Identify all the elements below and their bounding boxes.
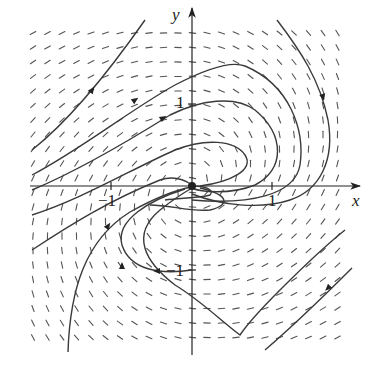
- field-segment: [103, 32, 109, 34]
- field-segment: [175, 293, 181, 295]
- field-segment: [103, 61, 109, 63]
- field-segment: [322, 59, 325, 65]
- field-segment: [263, 60, 268, 64]
- field-segment: [265, 160, 266, 166]
- field-segment: [308, 160, 309, 166]
- field-segment: [31, 118, 35, 123]
- field-segment: [263, 234, 268, 238]
- field-segment: [335, 321, 341, 324]
- field-segment: [336, 175, 338, 181]
- field-segment: [60, 161, 63, 166]
- field-segment: [89, 147, 93, 152]
- field-segment: [32, 204, 34, 210]
- field-segment: [117, 32, 123, 34]
- field-segment: [46, 306, 49, 312]
- direction-field: [30, 30, 340, 340]
- field-segment: [46, 175, 49, 181]
- field-segment: [160, 134, 166, 136]
- field-segment: [263, 46, 268, 50]
- field-segment: [118, 306, 123, 310]
- field-segment: [277, 219, 281, 224]
- field-segment: [291, 293, 297, 296]
- field-segment: [234, 104, 239, 108]
- field-segment: [262, 293, 268, 295]
- field-segment: [336, 219, 340, 224]
- field-segment: [90, 175, 93, 181]
- field-segment: [322, 175, 324, 181]
- field-segment: [219, 118, 224, 121]
- field-segment: [307, 219, 311, 224]
- x-tick-label-neg1: −1: [98, 192, 116, 209]
- field-segment: [320, 336, 326, 339]
- field-segment: [262, 278, 268, 281]
- field-segment: [47, 262, 48, 268]
- field-segment: [219, 235, 225, 237]
- field-segment: [233, 337, 239, 338]
- field-segment: [132, 277, 137, 281]
- field-segment: [233, 89, 238, 93]
- field-segment: [119, 248, 122, 254]
- phase-portrait-plot: [0, 0, 380, 370]
- field-segment: [75, 320, 79, 325]
- field-segment: [279, 160, 280, 166]
- field-segment: [76, 247, 77, 253]
- field-segment: [248, 60, 253, 64]
- field-segment: [103, 90, 109, 93]
- field-segment: [218, 264, 224, 265]
- field-segment: [306, 292, 311, 295]
- field-segment: [247, 293, 253, 295]
- field-segment: [118, 277, 122, 282]
- field-segment: [103, 104, 108, 107]
- field-segment: [90, 277, 93, 283]
- field-segment: [233, 75, 239, 78]
- field-segment: [117, 61, 123, 63]
- field-segment: [264, 132, 266, 138]
- field-segment: [337, 146, 338, 152]
- field-segment: [277, 322, 283, 324]
- field-segment: [31, 132, 35, 137]
- field-segment: [175, 220, 181, 223]
- field-segment: [322, 74, 325, 80]
- field-segment: [321, 204, 324, 209]
- field-segment: [146, 307, 152, 310]
- field-segment: [234, 205, 239, 209]
- field-segment: [175, 235, 181, 238]
- field-segment: [45, 32, 51, 35]
- field-segment: [336, 30, 339, 35]
- field-segment: [161, 322, 167, 324]
- field-segment: [292, 204, 296, 209]
- field-segment: [233, 279, 239, 281]
- field-segment: [262, 264, 268, 267]
- field-segment: [132, 90, 138, 92]
- field-segment: [161, 148, 167, 151]
- field-segment: [146, 47, 152, 48]
- field-segment: [204, 105, 210, 107]
- field-segment: [277, 278, 283, 281]
- field-segment: [322, 190, 325, 196]
- field-segment: [307, 175, 309, 181]
- field-segment: [247, 337, 253, 338]
- field-segment: [175, 308, 181, 309]
- field-segment: [204, 147, 210, 150]
- field-segment: [233, 46, 239, 49]
- field-segment: [248, 75, 253, 79]
- field-segment: [31, 75, 36, 79]
- field-segment: [204, 236, 210, 237]
- field-segment: [218, 308, 224, 309]
- field-segment: [30, 60, 35, 64]
- field-segment: [33, 262, 34, 268]
- field-segment: [30, 46, 35, 49]
- trajectory: [32, 20, 145, 150]
- field-segment: [88, 104, 93, 108]
- field-segment: [335, 292, 340, 296]
- field-segment: [76, 204, 77, 210]
- field-segment: [279, 131, 280, 137]
- field-segment: [263, 219, 268, 223]
- field-segment: [117, 133, 122, 137]
- field-segment: [61, 277, 63, 283]
- field-segment: [204, 47, 210, 48]
- equilibrium-point: [188, 182, 196, 190]
- field-segment: [337, 160, 339, 166]
- field-segment: [320, 307, 325, 310]
- field-segment: [219, 61, 225, 63]
